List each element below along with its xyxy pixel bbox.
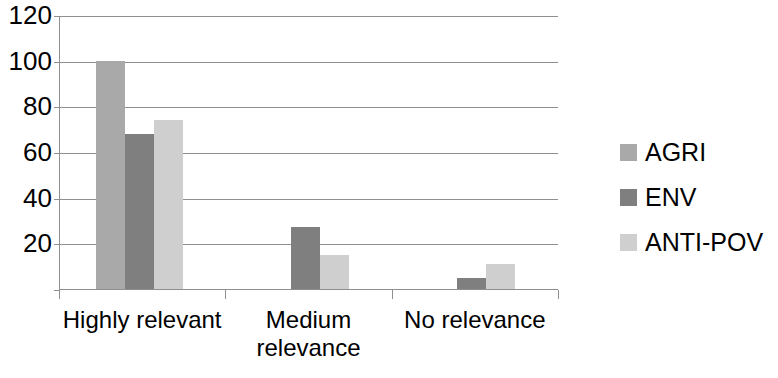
- y-axis-tick-label: 100: [0, 48, 52, 74]
- bar-group: [428, 15, 515, 289]
- legend-item-label: AGRI: [645, 140, 706, 165]
- legend-swatch-icon: [620, 234, 637, 251]
- plot-area: [59, 16, 558, 290]
- y-axis-tick: [54, 153, 60, 154]
- legend-item-label: ENV: [645, 185, 696, 210]
- x-axis-category-label: No relevance: [392, 306, 558, 334]
- y-axis-tick-label: 20: [0, 230, 52, 256]
- bar: [154, 120, 183, 289]
- legend-item[interactable]: ENV: [620, 175, 778, 220]
- bar: [320, 255, 349, 289]
- y-axis-tick: [54, 16, 60, 17]
- x-axis-tick: [392, 290, 393, 299]
- y-axis-tick: [54, 62, 60, 63]
- y-axis-tick: [54, 244, 60, 245]
- x-axis-category-label: Medium relevance: [225, 306, 391, 362]
- legend-swatch-icon: [620, 189, 637, 206]
- bar-group: [96, 15, 183, 289]
- y-axis-tick: [54, 107, 60, 108]
- legend-item-label: ANTI-POV: [645, 230, 763, 255]
- bar: [457, 278, 486, 289]
- bar: [486, 264, 515, 289]
- y-axis-tick-label: 60: [0, 139, 52, 165]
- legend: AGRIENVANTI-POV: [620, 130, 778, 265]
- bar: [96, 61, 125, 289]
- y-axis-tick: [54, 199, 60, 200]
- x-axis-tick: [225, 290, 226, 299]
- y-axis-tick-label: 80: [0, 93, 52, 119]
- x-axis-tick: [558, 290, 559, 299]
- x-axis-category-label: Highly relevant: [59, 306, 225, 334]
- x-axis-tick: [59, 290, 60, 299]
- bar: [291, 227, 320, 289]
- legend-item[interactable]: ANTI-POV: [620, 220, 778, 265]
- bar-group: [262, 15, 349, 289]
- bar-chart-figure: 120 100 80 60 40 20 Highly relevantMediu…: [0, 0, 778, 378]
- x-axis-line: [59, 289, 558, 290]
- bar: [125, 134, 154, 289]
- legend-swatch-icon: [620, 144, 637, 161]
- y-axis-tick-label: 120: [0, 2, 52, 28]
- legend-item[interactable]: AGRI: [620, 130, 778, 175]
- y-axis-tick-label: 40: [0, 185, 52, 211]
